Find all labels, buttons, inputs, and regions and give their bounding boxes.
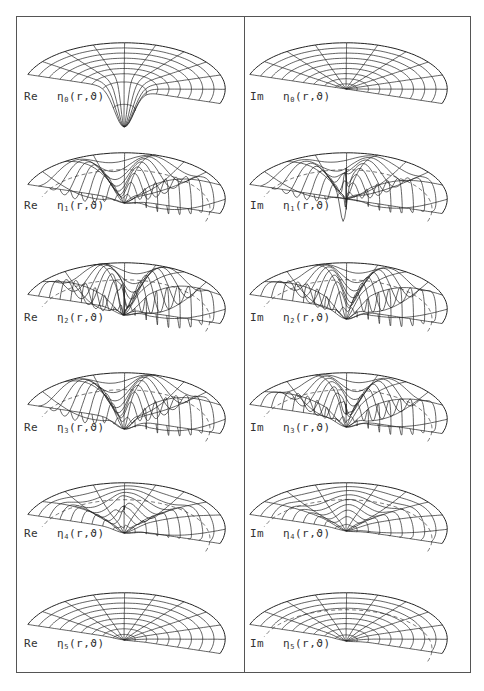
panel-label-re-5: Re η5(r,ϑ): [24, 637, 105, 651]
polar-mesh-graphic: [18, 347, 244, 457]
panel-label-re-4: Re η4(r,ϑ): [24, 527, 105, 541]
polar-mesh-graphic: [246, 567, 472, 677]
panel-label-re-2: Re η2(r,ϑ): [24, 311, 105, 325]
panel-label-im-4: Im η4(r,ϑ): [250, 527, 331, 541]
surface-plot-re-5: [18, 567, 244, 677]
surface-plot-im-5: [246, 567, 472, 677]
surface-plot-im-3: [246, 347, 472, 457]
surface-plot-im-2: [246, 237, 472, 347]
polar-mesh-graphic: [246, 347, 472, 457]
panel-label-im-0: Im η0(r,ϑ): [250, 90, 331, 104]
polar-mesh-graphic: [18, 457, 244, 567]
polar-mesh-graphic: [18, 237, 244, 347]
polar-mesh-graphic: [246, 17, 472, 127]
surface-plot-re-1: [18, 127, 244, 237]
polar-mesh-graphic: [18, 17, 244, 127]
surface-plot-re-2: [18, 237, 244, 347]
panel-label-im-3: Im η3(r,ϑ): [250, 421, 331, 435]
polar-mesh-graphic: [246, 457, 472, 567]
panel-label-im-1: Im η1(r,ϑ): [250, 199, 331, 213]
surface-plot-re-4: [18, 457, 244, 567]
polar-mesh-graphic: [246, 127, 472, 237]
panel-label-re-3: Re η3(r,ϑ): [24, 421, 105, 435]
surface-plot-im-0: [246, 17, 472, 127]
polar-mesh-graphic: [18, 567, 244, 677]
panel-label-re-1: Re η1(r,ϑ): [24, 199, 105, 213]
panel-label-re-0: Re η0(r,ϑ): [24, 90, 105, 104]
panel-label-im-5: Im η5(r,ϑ): [250, 637, 331, 651]
panel-label-im-2: Im η2(r,ϑ): [250, 311, 331, 325]
surface-plot-re-3: [18, 347, 244, 457]
column-divider: [244, 16, 245, 673]
polar-mesh-graphic: [246, 237, 472, 347]
surface-plot-im-4: [246, 457, 472, 567]
surface-plot-im-1: [246, 127, 472, 237]
surface-plot-re-0: [18, 17, 244, 127]
polar-mesh-graphic: [18, 127, 244, 237]
